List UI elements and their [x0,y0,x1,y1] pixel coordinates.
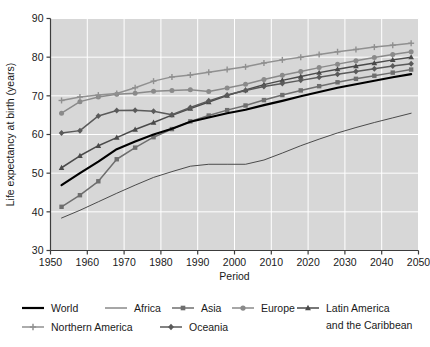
legend-label: Northern America [51,321,133,333]
legend-label: World [51,302,78,314]
life-expectancy-chart: 30405060708090 1950196019701980199020002… [0,0,430,347]
x-tick-label: 2030 [333,256,357,268]
y-tick-label: 80 [32,51,44,63]
y-tick-label: 60 [32,128,44,140]
legend-label: Europe [261,302,295,314]
legend-label-line2: and the Caribbean [326,319,413,331]
x-tick-label: 1980 [149,256,173,268]
y-axis-title: Life expectancy at birth (years) [4,63,16,207]
legend-label: Latin America [326,302,390,314]
x-tick-label: 1970 [112,256,136,268]
legend-label: Africa [134,302,161,314]
x-tick-label: 2000 [223,256,247,268]
y-tick-label: 30 [32,244,44,256]
y-tick-label: 90 [32,12,44,24]
chart-canvas: 30405060708090 1950196019701980199020002… [0,0,430,347]
x-tick-label: 2040 [370,256,394,268]
x-tick-label: 2050 [407,256,430,268]
y-tick-label: 70 [32,90,44,102]
x-tick-label: 1950 [39,256,63,268]
x-tick-label: 2020 [296,256,320,268]
x-tick-label: 1990 [186,256,210,268]
y-tick-label: 40 [32,206,44,218]
x-tick-label: 1960 [76,256,100,268]
legend-label: Oceania [189,321,228,333]
x-axis-tick-labels: 1950196019701980199020002010202020302040… [39,256,430,268]
x-tick-label: 2010 [260,256,284,268]
legend-label: Asia [201,302,222,314]
y-tick-label: 50 [32,167,44,179]
x-axis-title: Period [219,270,250,282]
